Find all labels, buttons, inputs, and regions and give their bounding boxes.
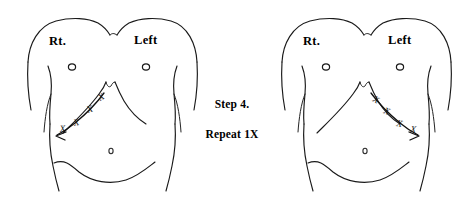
torso-figure-left: X X X X Rt. Left [28,19,198,191]
nipple-left [396,64,403,70]
arm-outline-right [448,62,451,110]
shoulder-outline-left [282,19,364,62]
side-label-right: Rt. [303,34,320,48]
costal-margin-right-side [63,82,106,133]
repeat-label: Repeat 1X [178,128,286,140]
nipple-right [68,64,75,70]
nipple-left [142,64,149,70]
arm-outline-left [28,62,31,110]
navel [109,148,113,153]
side-label-right: Rt. [49,34,66,48]
xiphoid-notch [106,82,115,87]
navel [363,148,367,153]
torso-side-left [304,124,313,191]
side-label-left: Left [134,33,158,47]
neck-notch [110,34,117,36]
torso-side-right [166,124,175,191]
torso-figure-right: X X X X Rt. Left [282,19,452,191]
torso-side-right [420,124,429,191]
illustration-page: X X X X Rt. Left [0,0,464,207]
xiphoid-notch [360,82,369,87]
x-mark: X [58,123,67,134]
pelvic-curve [54,162,155,183]
costal-margin-left-side [115,82,146,124]
side-label-left: Left [388,33,412,47]
pelvic-curve [308,162,409,183]
neck-notch [364,34,371,36]
x-mark: X [409,124,418,135]
shoulder-outline-left [28,19,110,62]
costal-margin-right-side [317,82,360,133]
step-label: Step 4. [178,98,286,110]
nipple-right [322,64,329,70]
